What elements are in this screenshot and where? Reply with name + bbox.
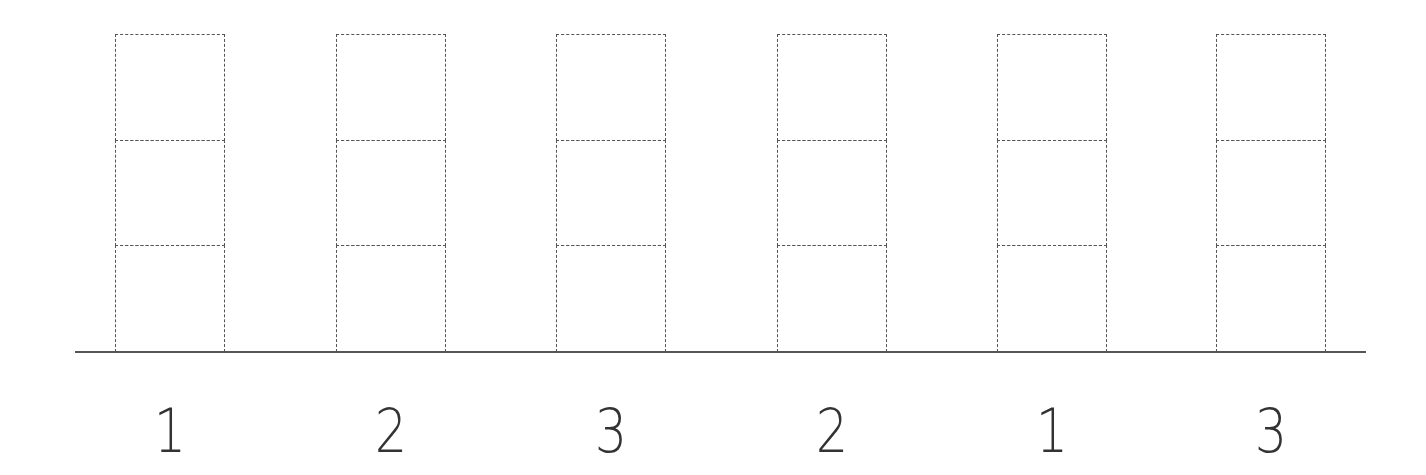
block-top bbox=[115, 34, 225, 141]
block-middle bbox=[1216, 140, 1326, 246]
block-stack-3 bbox=[556, 34, 666, 352]
block-top bbox=[336, 34, 446, 141]
block-stack-5 bbox=[997, 34, 1107, 352]
block-bottom bbox=[336, 245, 446, 352]
block-stack-6 bbox=[1216, 34, 1326, 352]
stack-label-5: 1 bbox=[1005, 396, 1099, 466]
block-top bbox=[997, 34, 1107, 141]
block-top bbox=[777, 34, 887, 141]
block-middle bbox=[556, 140, 666, 246]
block-bottom bbox=[1216, 245, 1326, 352]
stack-label-3: 3 bbox=[564, 396, 658, 466]
block-top bbox=[556, 34, 666, 141]
stack-label-4: 2 bbox=[785, 396, 879, 466]
block-middle bbox=[336, 140, 446, 246]
stack-label-6: 3 bbox=[1224, 396, 1318, 466]
block-stack-1 bbox=[115, 34, 225, 352]
block-top bbox=[1216, 34, 1326, 141]
block-bottom bbox=[115, 245, 225, 352]
block-bottom bbox=[556, 245, 666, 352]
stack-label-1: 1 bbox=[123, 396, 217, 466]
block-stack-2 bbox=[336, 34, 446, 352]
baseline bbox=[75, 351, 1366, 353]
block-bottom bbox=[777, 245, 887, 352]
block-stack-4 bbox=[777, 34, 887, 352]
block-middle bbox=[997, 140, 1107, 246]
block-middle bbox=[115, 140, 225, 246]
block-middle bbox=[777, 140, 887, 246]
block-bottom bbox=[997, 245, 1107, 352]
stack-label-2: 2 bbox=[344, 396, 438, 466]
